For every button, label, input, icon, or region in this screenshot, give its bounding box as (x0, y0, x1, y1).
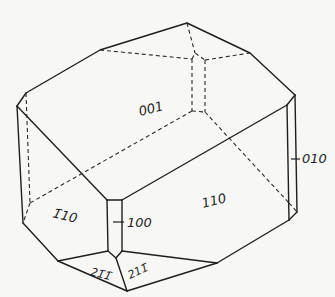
face-label-1bar10: 1̄10 (51, 205, 79, 226)
face-label-001: 001 (137, 98, 165, 119)
crystal-drawing: 001 110 1̄10 100 010 21̄1̄ 211̄ (0, 0, 335, 297)
crystal-diagram: 001 110 1̄10 100 010 21̄1̄ 211̄ (0, 0, 335, 297)
face-label-2bar1bar1: 21̄1̄ (89, 265, 113, 283)
face-label-211bar: 211̄ (126, 261, 151, 282)
face-label-010: 010 (302, 151, 327, 166)
visible-edges (17, 23, 297, 291)
face-label-110: 110 (200, 190, 228, 211)
face-label-100: 100 (127, 215, 152, 230)
